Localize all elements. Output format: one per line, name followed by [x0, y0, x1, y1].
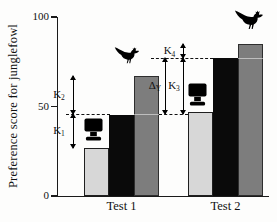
y-tick-label-50: 50: [19, 101, 49, 112]
arrow-K1: [73, 114, 74, 148]
junglefowl-icon: [114, 46, 140, 65]
annotation-label-K4: K4: [161, 44, 178, 58]
bar-test1-dark-gray: [134, 76, 159, 196]
dashed-line-through-bar: [238, 58, 263, 59]
category-label-test2: Test 2: [188, 199, 263, 214]
y-tick-50: [51, 106, 57, 107]
x-axis-line: [57, 196, 269, 197]
annotation-label-DY: ΔY: [146, 79, 164, 93]
y-tick-0: [51, 195, 57, 196]
arrow-K3: [183, 58, 184, 113]
category-label-test1: Test 1: [84, 199, 159, 214]
bar-test2-light-gray: [188, 112, 213, 196]
bar-test1-black: [109, 115, 134, 196]
bar-test2-black: [213, 58, 238, 196]
tv-monitor-icon: [188, 83, 207, 106]
y-tick-label-0: 0: [19, 190, 49, 201]
bar-test2-dark-gray: [238, 44, 263, 196]
y-tick-label-100: 100: [19, 11, 49, 22]
annotation-label-K2: K2: [48, 88, 70, 102]
junglefowl-icon: [234, 9, 264, 31]
tv-monitor-icon: [84, 118, 103, 141]
figure: 0 50 100 Preference score for junglefowl…: [0, 0, 277, 222]
y-tick-100: [51, 16, 57, 17]
dashed-line-through-bar: [134, 114, 159, 115]
y-axis-line: [57, 17, 58, 196]
bar-test1-light-gray: [84, 148, 109, 196]
annotation-label-K1: K1: [48, 124, 70, 138]
arrow-K2: [73, 76, 74, 114]
annotation-label-K3: K3: [166, 79, 182, 93]
arrow-K4: [183, 44, 184, 58]
plot-area: 0 50 100 Preference score for junglefowl…: [0, 0, 277, 222]
y-axis-title: Preference score for junglefowl: [6, 24, 21, 188]
